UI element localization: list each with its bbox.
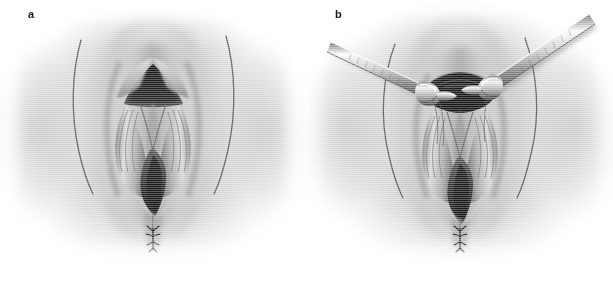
figure-two-panel: a bbox=[0, 0, 613, 285]
panel-b-illustration bbox=[307, 0, 613, 285]
panel-b: b bbox=[307, 0, 613, 285]
panel-label-a: a bbox=[28, 9, 34, 20]
panel-label-b: b bbox=[335, 9, 342, 20]
panel-a: a bbox=[0, 0, 306, 285]
panel-a-illustration bbox=[0, 0, 306, 285]
